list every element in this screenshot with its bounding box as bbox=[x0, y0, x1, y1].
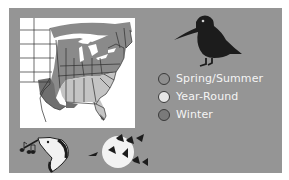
woodcock-silhouette-icon bbox=[170, 12, 244, 68]
legend-label: Spring/Summer bbox=[176, 72, 263, 85]
range-map bbox=[20, 18, 135, 128]
spring-summer-swatch-icon bbox=[158, 73, 170, 85]
legend: Spring/Summer Year-Round Winter bbox=[158, 70, 263, 124]
year-round-swatch-icon bbox=[158, 91, 170, 103]
winter-swatch-icon bbox=[158, 109, 170, 121]
legend-item-spring-summer: Spring/Summer bbox=[158, 70, 263, 87]
woodcock-courtship-illustration-icon bbox=[18, 132, 76, 174]
legend-label: Winter bbox=[176, 108, 213, 121]
birds-moon-illustration-icon bbox=[88, 132, 150, 174]
legend-label: Year-Round bbox=[176, 90, 238, 103]
legend-item-year-round: Year-Round bbox=[158, 88, 263, 105]
us-east-map-graphic bbox=[20, 18, 135, 128]
legend-item-winter: Winter bbox=[158, 106, 263, 123]
